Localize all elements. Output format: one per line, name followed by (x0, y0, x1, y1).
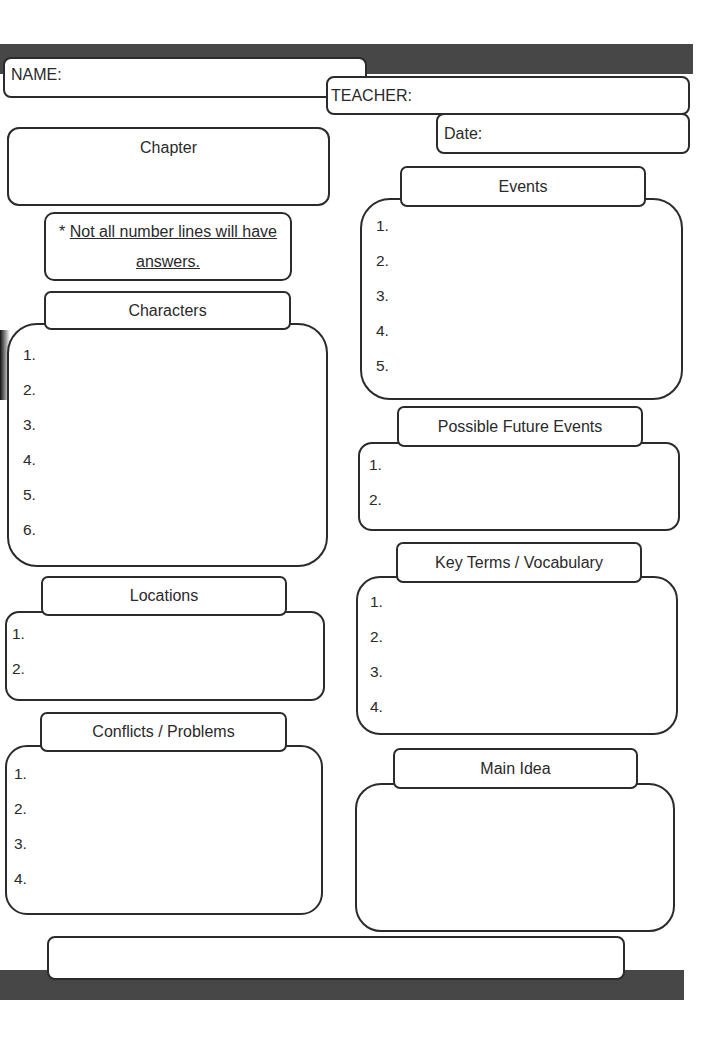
list-item: 1. (369, 447, 382, 482)
teacher-label: TEACHER: (331, 87, 412, 105)
list-item: 6. (23, 512, 36, 547)
list-item: 2. (14, 791, 27, 826)
future-events-body[interactable]: 1. 2. (358, 442, 680, 531)
characters-body[interactable]: 1. 2. 3. 4. 5. 6. (7, 323, 328, 567)
events-list: 1. 2. 3. 4. 5. (376, 208, 389, 383)
list-item: 5. (376, 348, 389, 383)
list-item: 4. (14, 861, 27, 896)
key-terms-header: Key Terms / Vocabulary (396, 542, 642, 583)
note-box: * Not all number lines will have answers… (44, 212, 292, 281)
key-terms-list: 1. 2. 3. 4. (370, 584, 383, 724)
conflicts-body[interactable]: 1. 2. 3. 4. (5, 745, 323, 915)
bottom-blank-box[interactable] (47, 936, 625, 980)
list-item: 3. (14, 826, 27, 861)
list-item: 4. (376, 313, 389, 348)
name-label: NAME: (11, 66, 62, 84)
locations-list: 1. 2. (12, 616, 25, 686)
list-item: 3. (370, 654, 383, 689)
main-idea-body[interactable] (355, 783, 675, 932)
conflicts-list: 1. 2. 3. 4. (14, 756, 27, 896)
list-item: 2. (12, 651, 25, 686)
list-item: 4. (370, 689, 383, 724)
locations-body[interactable]: 1. 2. (5, 611, 325, 701)
events-header: Events (400, 166, 646, 207)
chapter-box[interactable]: Chapter (7, 127, 330, 206)
events-body[interactable]: 1. 2. 3. 4. 5. (360, 198, 683, 400)
locations-header: Locations (41, 576, 287, 616)
note-line-1: * Not all number lines will have (59, 217, 277, 247)
list-item: 2. (369, 482, 382, 517)
date-label: Date: (444, 125, 482, 143)
characters-list: 1. 2. 3. 4. 5. 6. (23, 337, 36, 547)
future-events-list: 1. 2. (369, 447, 382, 517)
list-item: 2. (370, 619, 383, 654)
note-text-1: Not all number lines will have (70, 223, 277, 240)
list-item: 1. (376, 208, 389, 243)
name-field[interactable]: NAME: (3, 57, 367, 98)
list-item: 1. (23, 337, 36, 372)
note-text-2: answers. (136, 247, 200, 277)
list-item: 1. (14, 756, 27, 791)
list-item: 1. (12, 616, 25, 651)
list-item: 5. (23, 477, 36, 512)
conflicts-header: Conflicts / Problems (40, 712, 287, 752)
main-idea-header: Main Idea (393, 748, 638, 789)
date-field[interactable]: Date: (436, 113, 690, 154)
list-item: 2. (376, 243, 389, 278)
teacher-field[interactable]: TEACHER: (326, 76, 690, 115)
chapter-title: Chapter (9, 139, 328, 157)
characters-header: Characters (44, 291, 291, 330)
list-item: 4. (23, 442, 36, 477)
key-terms-body[interactable]: 1. 2. 3. 4. (356, 576, 678, 735)
list-item: 1. (370, 584, 383, 619)
list-item: 3. (23, 407, 36, 442)
list-item: 3. (376, 278, 389, 313)
future-events-header: Possible Future Events (397, 406, 643, 447)
list-item: 2. (23, 372, 36, 407)
